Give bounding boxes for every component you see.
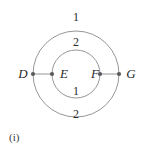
figure-caption: (i): [9, 132, 19, 143]
vertex-label-f: F: [88, 67, 102, 80]
arc-label-top-outer: 1: [69, 11, 83, 23]
vertex-label-e: E: [57, 67, 71, 80]
vertex-label-d: D: [16, 67, 30, 80]
vertex-dot-d: [31, 72, 35, 76]
vertex-dot-e: [50, 72, 54, 76]
arc-label-top-inner: 2: [69, 36, 83, 48]
figure-container: D E F G 1 2 1 2 (i): [0, 0, 153, 152]
arc-label-bottom-inner: 1: [69, 85, 83, 97]
vertex-label-g: G: [124, 67, 138, 80]
vertex-dot-g: [117, 72, 121, 76]
arc-label-bottom-outer: 2: [69, 108, 83, 120]
